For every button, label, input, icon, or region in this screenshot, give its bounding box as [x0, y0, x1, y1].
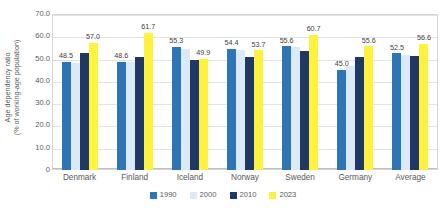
bar-rect [291, 47, 300, 170]
category-label-average: Average [383, 172, 438, 186]
bar-norway-2000[interactable] [236, 14, 245, 170]
bar-groups: 48.557.048.661.755.349.954.453.755.660.7… [52, 14, 438, 170]
bar-iceland-2000[interactable] [181, 14, 190, 170]
y-axis-tick-labels: 010.020.030.040.050.060.070.0 [22, 0, 50, 210]
bar-rect [300, 51, 309, 170]
bar-rect [117, 62, 126, 170]
bar-denmark-2000[interactable] [71, 14, 80, 170]
bar-group-sweden: 55.660.7 [273, 14, 328, 170]
category-label-sweden: Sweden [273, 172, 328, 186]
bar-group-iceland: 55.349.9 [162, 14, 217, 170]
bar-rect [364, 46, 373, 170]
legend-item-2023[interactable]: 2023 [269, 191, 296, 199]
bar-norway-1990[interactable]: 54.4 [227, 14, 236, 170]
bar-denmark-2023[interactable]: 57.0 [89, 14, 98, 170]
bar-rect [71, 63, 80, 170]
age-dependency-ratio-bar-chart: Age dependency ratio (% of working-age p… [0, 0, 446, 210]
data-label-iceland-2023: 49.9 [196, 49, 210, 57]
bar-iceland-2023[interactable]: 49.9 [199, 14, 208, 170]
bar-rect [254, 50, 263, 170]
bar-norway-2023[interactable]: 53.7 [254, 14, 263, 170]
bar-sweden-2023[interactable]: 60.7 [309, 14, 318, 170]
bar-sweden-2010[interactable] [300, 14, 309, 170]
bar-sweden-2000[interactable] [291, 14, 300, 170]
bar-rect [355, 57, 364, 170]
bar-norway-2010[interactable] [245, 14, 254, 170]
bar-group-denmark: 48.557.0 [52, 14, 107, 170]
bar-rect [282, 46, 291, 170]
bar-rect [245, 57, 254, 170]
bar-rect [89, 43, 98, 170]
bar-denmark-1990[interactable]: 48.5 [62, 14, 71, 170]
bar-rect [392, 53, 401, 170]
y-axis-tick-40: 40.0 [22, 77, 50, 85]
y-axis-tick-30: 30.0 [22, 99, 50, 107]
bar-group-germany: 45.055.6 [328, 14, 383, 170]
y-axis-title-line-1: Age dependency ratio [4, 40, 13, 136]
bar-germany-2023[interactable]: 55.6 [364, 14, 373, 170]
bar-rect [190, 60, 199, 170]
bar-rect [62, 62, 71, 170]
bar-finland-2010[interactable] [135, 14, 144, 170]
chart-legend: 1990200020102023 [0, 187, 446, 203]
bar-average-1990[interactable]: 52.5 [392, 14, 401, 170]
legend-label-1990: 1990 [160, 191, 177, 199]
data-label-norway-2023: 53.7 [251, 41, 265, 49]
bar-finland-2023[interactable]: 61.7 [144, 14, 153, 170]
bar-iceland-1990[interactable]: 55.3 [172, 14, 181, 170]
data-label-finland-2023: 61.7 [141, 23, 155, 31]
y-axis-tick-50: 50.0 [22, 55, 50, 63]
legend-label-2010: 2010 [240, 191, 257, 199]
legend-label-2000: 2000 [200, 191, 217, 199]
legend-swatch-2010 [230, 192, 237, 199]
data-label-average-2023: 56.6 [417, 34, 431, 42]
bar-germany-1990[interactable]: 45.0 [337, 14, 346, 170]
category-label-denmark: Denmark [52, 172, 107, 186]
category-label-iceland: Iceland [162, 172, 217, 186]
bar-average-2000[interactable] [401, 14, 410, 170]
bar-group-norway: 54.453.7 [217, 14, 272, 170]
y-axis-tick-60: 60.0 [22, 32, 50, 40]
bar-rect [337, 70, 346, 170]
data-label-germany-2023: 55.6 [362, 37, 376, 45]
category-label-norway: Norway [217, 172, 272, 186]
legend-swatch-1990 [150, 192, 157, 199]
bar-rect [410, 56, 419, 170]
y-axis-tick-70: 70.0 [22, 10, 50, 18]
bar-rect [181, 49, 190, 170]
bar-sweden-1990[interactable]: 55.6 [282, 14, 291, 170]
bar-rect [126, 62, 135, 170]
bar-rect [80, 53, 89, 170]
bar-finland-1990[interactable]: 48.6 [117, 14, 126, 170]
category-label-germany: Germany [328, 172, 383, 186]
bar-group-finland: 48.661.7 [107, 14, 162, 170]
legend-swatch-2023 [269, 192, 276, 199]
legend-item-1990[interactable]: 1990 [150, 191, 177, 199]
bar-group-average: 52.556.6 [383, 14, 438, 170]
bar-germany-2000[interactable] [346, 14, 355, 170]
bar-rect [135, 57, 144, 170]
category-label-finland: Finland [107, 172, 162, 186]
bar-average-2023[interactable]: 56.6 [419, 14, 428, 170]
bar-iceland-2010[interactable] [190, 14, 199, 170]
y-axis-tick-20: 20.0 [22, 121, 50, 129]
data-label-denmark-2023: 57.0 [86, 33, 100, 41]
bar-rect [172, 47, 181, 170]
data-label-sweden-2023: 60.7 [307, 25, 321, 33]
x-axis-category-labels: DenmarkFinlandIcelandNorwaySwedenGermany… [52, 172, 438, 186]
bar-rect [236, 50, 245, 170]
y-axis-title-line-2: (% of working-age population) [13, 40, 22, 136]
legend-item-2010[interactable]: 2010 [230, 191, 257, 199]
bar-rect [309, 35, 318, 170]
bar-rect [144, 33, 153, 171]
bar-rect [401, 55, 410, 170]
legend-label-2023: 2023 [279, 191, 296, 199]
bar-rect [346, 66, 355, 170]
legend-swatch-2000 [190, 192, 197, 199]
y-axis-tick-10: 10.0 [22, 144, 50, 152]
bar-rect [227, 49, 236, 170]
y-axis-tick-0: 0 [22, 166, 50, 174]
bar-rect [199, 59, 208, 170]
bar-finland-2000[interactable] [126, 14, 135, 170]
legend-item-2000[interactable]: 2000 [190, 191, 217, 199]
